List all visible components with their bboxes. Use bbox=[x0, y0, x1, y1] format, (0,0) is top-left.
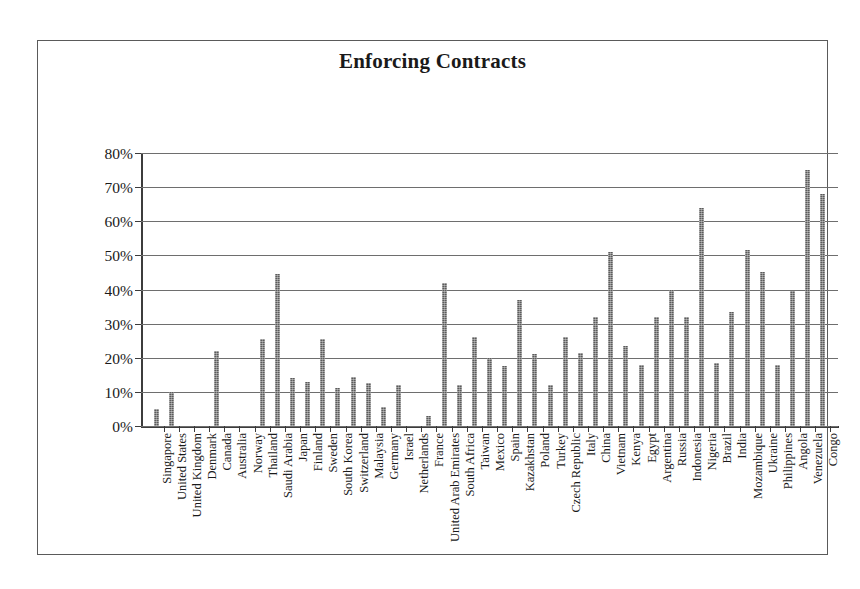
x-axis-category-label: Kazakhstan bbox=[524, 433, 537, 491]
y-axis-tick-label: 0% bbox=[73, 419, 133, 435]
bar bbox=[623, 346, 628, 426]
x-axis-category-label: China bbox=[600, 433, 613, 463]
x-axis-category-label: Angola bbox=[797, 433, 810, 470]
x-axis-tick-mark bbox=[800, 426, 801, 432]
x-axis-tick-mark bbox=[209, 426, 210, 432]
y-axis-tick-mark bbox=[135, 290, 141, 291]
y-axis-tick-label: 30% bbox=[73, 317, 133, 333]
bar bbox=[214, 351, 219, 426]
x-axis-category-label: Mozambique bbox=[752, 433, 765, 499]
bar bbox=[639, 365, 644, 426]
x-axis-category-label: Ukraine bbox=[767, 433, 780, 473]
bar bbox=[593, 317, 598, 426]
x-axis-category-label: United Arab Emirates bbox=[449, 433, 462, 542]
x-axis-category-label: Denmark bbox=[206, 433, 219, 480]
x-axis-tick-mark bbox=[270, 426, 271, 432]
x-axis-category-label: Taiwan bbox=[479, 433, 492, 470]
x-axis-tick-mark bbox=[194, 426, 195, 432]
bar bbox=[442, 283, 447, 426]
x-axis-tick-mark bbox=[346, 426, 347, 432]
y-axis-tick-mark bbox=[135, 392, 141, 393]
x-axis-category-label: Finland bbox=[312, 433, 325, 471]
x-axis-category-label: Italy bbox=[585, 433, 598, 456]
bar bbox=[699, 208, 704, 426]
x-axis-category-label: Netherlands bbox=[418, 433, 431, 493]
x-axis-category-label: Spain bbox=[509, 433, 522, 461]
bar bbox=[532, 354, 537, 426]
x-axis-tick-mark bbox=[527, 426, 528, 432]
x-axis-tick-mark bbox=[239, 426, 240, 432]
bar bbox=[381, 407, 386, 426]
x-axis-tick-mark bbox=[543, 426, 544, 432]
x-axis-category-label: India bbox=[736, 433, 749, 459]
bar bbox=[169, 392, 174, 426]
bar bbox=[669, 290, 674, 427]
bar bbox=[320, 339, 325, 426]
x-axis-category-label: Malaysia bbox=[373, 433, 386, 479]
x-axis-tick-mark bbox=[618, 426, 619, 432]
x-axis-category-label: Venezuela bbox=[812, 433, 825, 484]
bar bbox=[335, 388, 340, 426]
x-axis-category-label: Philippines bbox=[782, 433, 795, 489]
bar bbox=[426, 416, 431, 426]
x-axis-category-label: Sweden bbox=[327, 433, 340, 473]
y-axis-tick-mark bbox=[135, 324, 141, 325]
x-axis-category-label: Nigeria bbox=[706, 433, 719, 470]
x-axis-tick-mark bbox=[603, 426, 604, 432]
gridline bbox=[141, 290, 838, 291]
bar bbox=[487, 358, 492, 426]
bar bbox=[775, 365, 780, 426]
x-axis-tick-mark bbox=[285, 426, 286, 432]
y-axis-tick-label: 10% bbox=[73, 385, 133, 401]
x-axis-tick-mark bbox=[376, 426, 377, 432]
bar bbox=[472, 337, 477, 426]
x-axis-tick-mark bbox=[830, 426, 831, 432]
bar bbox=[457, 385, 462, 426]
x-axis-tick-mark bbox=[755, 426, 756, 432]
y-axis-tick-mark bbox=[135, 221, 141, 222]
chart-page: Enforcing Contracts 80%70%60%50%40%30%20… bbox=[0, 0, 860, 589]
figure-frame: Enforcing Contracts 80%70%60%50%40%30%20… bbox=[37, 40, 828, 555]
x-axis-tick-mark bbox=[224, 426, 225, 432]
x-axis-category-label: Russia bbox=[676, 433, 689, 466]
x-axis-category-label: United States bbox=[176, 433, 189, 500]
x-axis-category-label: Thailand bbox=[267, 433, 280, 477]
x-axis-tick-mark bbox=[558, 426, 559, 432]
x-axis-tick-mark bbox=[452, 426, 453, 432]
bar bbox=[305, 382, 310, 426]
x-axis-tick-mark bbox=[361, 426, 362, 432]
x-axis-tick-mark bbox=[724, 426, 725, 432]
y-axis-tick-label: 70% bbox=[73, 180, 133, 196]
y-axis-tick-label: 80% bbox=[73, 146, 133, 162]
x-axis-tick-mark bbox=[573, 426, 574, 432]
bar bbox=[351, 377, 356, 426]
x-axis-tick-mark bbox=[421, 426, 422, 432]
x-axis-category-label: Singapore bbox=[161, 433, 174, 484]
x-axis-tick-mark bbox=[679, 426, 680, 432]
x-axis-category-label: Switzerland bbox=[358, 433, 371, 493]
x-axis-category-label: South Korea bbox=[342, 433, 355, 496]
y-axis-tick-label: 50% bbox=[73, 248, 133, 264]
x-axis-tick-mark bbox=[467, 426, 468, 432]
x-axis-tick-mark bbox=[770, 426, 771, 432]
x-axis-tick-mark bbox=[300, 426, 301, 432]
x-axis-category-label: France bbox=[433, 433, 446, 467]
bar bbox=[260, 339, 265, 426]
bar bbox=[654, 317, 659, 426]
x-axis-tick-mark bbox=[179, 426, 180, 432]
x-axis-category-label: Japan bbox=[297, 433, 310, 461]
x-axis-tick-mark bbox=[315, 426, 316, 432]
x-axis-tick-mark bbox=[330, 426, 331, 432]
x-axis-tick-mark bbox=[436, 426, 437, 432]
bar bbox=[684, 317, 689, 426]
x-axis-category-label: Mexico bbox=[494, 433, 507, 471]
x-axis-category-label: United Kingdom bbox=[191, 433, 204, 517]
bar bbox=[563, 337, 568, 426]
y-axis-tick-label: 20% bbox=[73, 351, 133, 367]
x-axis-category-label: Poland bbox=[539, 433, 552, 468]
x-axis-category-label: Congo bbox=[827, 433, 840, 466]
plot-area bbox=[141, 153, 838, 426]
x-axis-tick-mark bbox=[255, 426, 256, 432]
gridline bbox=[141, 255, 838, 256]
x-axis-category-label: Vietnam bbox=[615, 433, 628, 475]
